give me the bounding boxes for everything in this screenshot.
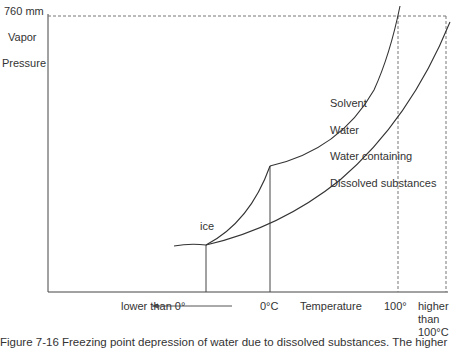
y-axis-title-line2: Pressure (2, 57, 46, 70)
ice-label: ice (200, 220, 214, 233)
solvent-water-curve (270, 6, 400, 166)
legend-water: Water (330, 124, 359, 137)
x-tick-100: 100° (384, 300, 407, 313)
solution-curve (206, 22, 450, 245)
y-reference-label: 760 mm (4, 5, 44, 18)
x-axis-title: Temperature (300, 300, 362, 313)
legend-solvent: Solvent (330, 97, 367, 110)
chart-canvas (0, 0, 454, 350)
legend-dissolved-substances: Dissolved substances (330, 177, 436, 190)
y-axis-title-line1: Vapor (8, 31, 37, 44)
x-tick-higher-line2: than (418, 313, 439, 326)
figure-caption: Figure 7-16 Freezing point depression of… (0, 336, 447, 348)
legend-water-containing: Water containing (330, 150, 412, 163)
x-tick-lower-than-0: lower than 0° (121, 300, 185, 313)
x-tick-higher-line1: higher (418, 300, 449, 313)
x-tick-0c: 0°C (260, 300, 278, 313)
ice-curve (174, 166, 270, 246)
